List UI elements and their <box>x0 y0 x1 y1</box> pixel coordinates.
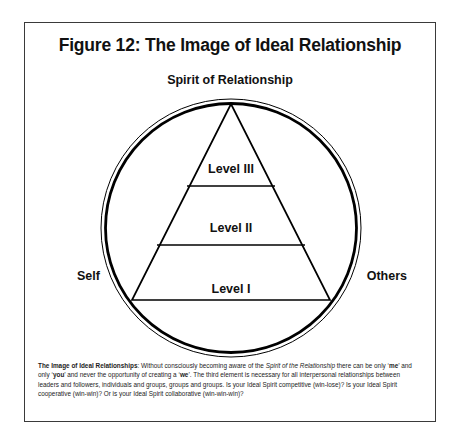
caption-em-me: me <box>389 362 398 369</box>
level-1-label: Level I <box>212 282 251 296</box>
spirit-of-relationship-label: Spirit of Relationship <box>25 73 435 87</box>
pyramid-triangle <box>132 104 330 300</box>
level-3-label: Level III <box>208 162 254 176</box>
others-label: Others <box>367 269 407 283</box>
self-label: Self <box>77 269 100 283</box>
caption-em-you: you <box>53 371 64 378</box>
caption-em-spirit: Spirit of the Relationship <box>266 362 335 369</box>
caption-seg-4: ’ and never the opportunity of creating … <box>64 371 180 378</box>
figure-caption: The Image of Ideal Relationships: Withou… <box>38 361 422 399</box>
level-2-label: Level II <box>210 221 252 235</box>
figure-title: Figure 12: The Image of Ideal Relationsh… <box>25 35 435 56</box>
caption-seg-2: there can be only ‘ <box>335 362 389 369</box>
caption-lead: The Image of Ideal Relationships <box>38 362 137 369</box>
caption-seg-1: : Without consciously becoming aware of … <box>137 362 265 369</box>
figure-frame: Figure 12: The Image of Ideal Relationsh… <box>24 22 436 422</box>
ideal-relationship-diagram: Level III Level II Level I <box>99 97 363 359</box>
